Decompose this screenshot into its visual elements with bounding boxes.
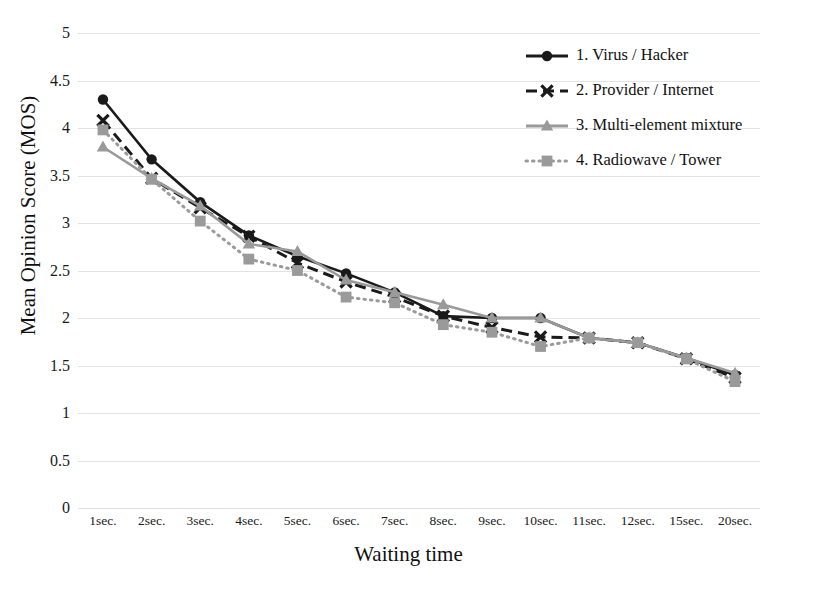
x-axis-tick-label: 11sec.: [572, 512, 606, 530]
legend-label: 2. Provider / Internet: [576, 79, 713, 101]
x-axis-tick-label: 12sec.: [621, 512, 655, 530]
y-axis-tick-label: 2: [24, 310, 70, 326]
legend-item[interactable]: 1. Virus / Hacker: [524, 45, 804, 80]
legend-label: 1. Virus / Hacker: [576, 44, 688, 66]
data-point-circle: [542, 51, 552, 61]
legend-label: 3. Multi-element mixture: [576, 114, 742, 136]
y-axis-tick-label: 0: [24, 500, 70, 516]
data-point-square: [146, 174, 157, 185]
data-point-circle: [146, 154, 156, 164]
legend-symbol-triangle-icon: [524, 115, 570, 137]
data-point-square: [438, 319, 449, 330]
x-axis-tick-label: 15sec.: [669, 512, 703, 530]
legend-item[interactable]: 3. Multi-element mixture: [524, 115, 804, 150]
y-axis-tick-label: 4: [24, 120, 70, 136]
legend-item[interactable]: 4. Radiowave / Tower: [524, 150, 804, 185]
x-axis-tick-labels: 1sec.2sec.3sec.4sec.5sec.6sec.7sec.8sec.…: [78, 512, 760, 534]
data-point-square: [98, 125, 109, 136]
y-axis-tick-labels: 00.511.522.533.544.55: [24, 33, 70, 508]
data-point-square: [292, 265, 303, 276]
x-axis-tick-label: 10sec.: [523, 512, 557, 530]
x-axis-tick-label: 1sec.: [89, 512, 116, 530]
data-point-square: [632, 337, 643, 348]
data-point-square: [542, 156, 553, 167]
data-point-square: [195, 216, 206, 227]
y-axis-tick-label: 5: [24, 25, 70, 41]
data-point-x: [97, 115, 108, 126]
chart-figure: Mean Opinion Score (MOS) 00.511.522.533.…: [0, 0, 817, 589]
legend-symbol-x-icon: [524, 80, 570, 102]
data-point-square: [341, 292, 352, 303]
data-point-square: [389, 297, 400, 308]
legend-symbol-square-icon: [524, 150, 570, 172]
x-axis-tick-label: 4sec.: [235, 512, 262, 530]
legend-item[interactable]: 2. Provider / Internet: [524, 80, 804, 115]
y-axis-tick-label: 2.5: [24, 263, 70, 279]
data-point-triangle: [97, 141, 109, 152]
data-point-square: [681, 353, 692, 364]
y-axis-tick-label: 1.5: [24, 358, 70, 374]
x-axis-title: Waiting time: [0, 542, 817, 567]
y-axis-tick-label: 4.5: [24, 73, 70, 89]
y-axis-tick-label: 3: [24, 215, 70, 231]
y-axis-tick-label: 0.5: [24, 453, 70, 469]
chart-legend: 1. Virus / Hacker2. Provider / Internet3…: [524, 45, 804, 185]
data-point-square: [584, 333, 595, 344]
y-axis-tick-label: 3.5: [24, 168, 70, 184]
x-axis-tick-label: 7sec.: [381, 512, 408, 530]
data-point-square: [730, 376, 741, 387]
x-axis-tick-label: 5sec.: [284, 512, 311, 530]
x-axis-tick-label: 6sec.: [332, 512, 359, 530]
data-point-circle: [98, 94, 108, 104]
gridline: [78, 508, 760, 509]
data-point-square: [487, 327, 498, 338]
x-axis-tick-label: 20sec.: [718, 512, 752, 530]
y-axis-tick-label: 1: [24, 405, 70, 421]
x-axis-tick-label: 2sec.: [138, 512, 165, 530]
legend-label: 4. Radiowave / Tower: [576, 149, 721, 171]
data-point-square: [535, 341, 546, 352]
data-point-square: [243, 254, 254, 265]
x-axis-tick-label: 8sec.: [430, 512, 457, 530]
x-axis-tick-label: 9sec.: [478, 512, 505, 530]
x-axis-tick-label: 3sec.: [187, 512, 214, 530]
legend-symbol-circle-icon: [524, 45, 570, 67]
